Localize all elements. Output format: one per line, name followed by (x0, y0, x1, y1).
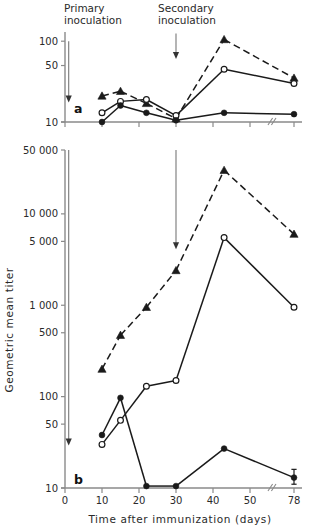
series-segment-filled-triangle-dashed (176, 39, 224, 118)
series-segment-filled-triangle-dashed (176, 170, 224, 270)
series-segment-open-circle-solid (121, 386, 147, 420)
x-tick-label: 40 (207, 495, 220, 506)
data-point-filled-circle-solid (221, 446, 227, 452)
data-point-filled-circle-solid (221, 110, 227, 116)
series-segment-filled-triangle-dashed (224, 39, 294, 78)
panel-b: 10501005001 0005 00010 00050 00001020304… (23, 145, 302, 507)
data-point-open-circle-solid (144, 383, 150, 389)
data-point-filled-circle-solid (173, 483, 179, 489)
primary-inoculation-arrow-head (66, 95, 72, 102)
primary-inoculation-label-line1: Primary (64, 2, 105, 14)
y-tick-label: 50 000 (23, 145, 58, 156)
data-point-open-circle-solid (291, 304, 297, 310)
series-segment-open-circle-solid (176, 238, 224, 381)
series-segment-filled-circle-solid (224, 113, 294, 114)
data-point-open-circle-solid (221, 66, 227, 72)
panel-a-label: a (74, 101, 82, 116)
series-segment-filled-circle-solid (121, 398, 147, 486)
secondary-inoculation-label-line2: inoculation (158, 14, 216, 26)
y-tick-label: 500 (39, 327, 58, 338)
panel-b-label: b (74, 472, 83, 487)
x-tick-label: 50 (244, 495, 257, 506)
data-point-filled-triangle-dashed (116, 87, 124, 94)
x-tick-label: 10 (96, 495, 109, 506)
series-segment-filled-triangle-dashed (224, 170, 294, 234)
x-tick-label: 78 (288, 495, 301, 506)
data-point-open-circle-solid (99, 110, 105, 116)
data-point-filled-circle-solid (144, 110, 150, 116)
series-segment-open-circle-solid (224, 238, 294, 308)
y-tick-label: 50 (45, 419, 58, 430)
data-point-filled-circle-solid (118, 395, 124, 401)
data-point-filled-triangle-dashed (220, 35, 228, 42)
data-point-open-circle-solid (99, 442, 105, 448)
y-tick-label: 10 (45, 483, 58, 494)
series-segment-filled-circle-solid (224, 449, 294, 478)
series-segment-filled-circle-solid (176, 113, 224, 120)
series-segment-filled-triangle-dashed (121, 307, 147, 335)
primary-inoculation-arrow-head (66, 438, 72, 445)
data-point-open-circle-solid (144, 97, 150, 103)
data-point-open-circle-solid (173, 378, 179, 384)
secondary-inoculation-arrow-head (173, 52, 179, 59)
data-point-filled-circle-solid (291, 111, 297, 117)
y-tick-label: 100 (39, 391, 58, 402)
series-segment-open-circle-solid (146, 381, 176, 387)
data-point-filled-triangle-dashed (98, 365, 106, 372)
series-segment-open-circle-solid (176, 69, 224, 115)
data-point-filled-triangle-dashed (172, 266, 180, 273)
series-segment-open-circle-solid (102, 420, 121, 444)
secondary-inoculation-label-line1: Secondary (158, 2, 214, 14)
series-segment-filled-triangle-dashed (102, 335, 121, 369)
series-segment-open-circle-solid (224, 69, 294, 83)
data-point-filled-circle-solid (99, 119, 105, 125)
data-point-filled-circle-solid (291, 475, 297, 481)
x-tick-label: 20 (133, 495, 146, 506)
data-point-open-circle-solid (221, 235, 227, 241)
series-segment-filled-circle-solid (102, 398, 121, 435)
y-tick-label: 50 (45, 60, 58, 71)
data-point-open-circle-solid (291, 81, 297, 87)
y-tick-label: 10 000 (23, 208, 58, 219)
series-segment-filled-circle-solid (176, 449, 224, 486)
y-tick-label: 100 (39, 36, 58, 47)
data-point-open-circle-solid (118, 417, 124, 423)
data-point-filled-circle-solid (118, 103, 124, 109)
figure-container: 1050100 10501005001 0005 00010 00050 000… (0, 0, 309, 529)
series-segment-filled-triangle-dashed (146, 271, 176, 308)
data-point-filled-circle-solid (144, 483, 150, 489)
x-axis-title: Time after immunization (days) (87, 513, 271, 525)
y-tick-label: 1 000 (29, 300, 58, 311)
secondary-inoculation-arrow-head (173, 242, 179, 249)
data-point-filled-circle-solid (99, 432, 105, 438)
y-axis-title: Geometric mean titer (3, 267, 15, 392)
x-tick-label: 0 (62, 495, 68, 506)
data-point-filled-triangle-dashed (220, 166, 228, 173)
scientific-figure: 1050100 10501005001 0005 00010 00050 000… (0, 0, 309, 529)
primary-inoculation-label-line2: inoculation (64, 14, 122, 26)
data-point-filled-circle-solid (173, 117, 179, 123)
x-tick-label: 30 (170, 495, 183, 506)
y-tick-label: 5 000 (29, 236, 58, 247)
y-tick-label: 10 (45, 117, 58, 128)
